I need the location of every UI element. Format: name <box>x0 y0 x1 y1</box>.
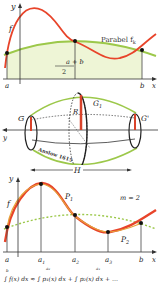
point-a <box>5 51 9 55</box>
y-label: y <box>2 134 8 142</box>
middle-ellipse-front <box>78 93 87 169</box>
limit-b: b <box>6 268 9 273</box>
H-arrow-left-icon <box>30 169 35 172</box>
point-mid <box>73 39 77 43</box>
point-b <box>140 48 144 52</box>
tick-a1: a1 <box>38 256 45 265</box>
G-prime-label: G' <box>141 114 149 123</box>
m-label: m = 2 <box>120 194 140 202</box>
P1-label: P1 <box>64 192 73 202</box>
midpoint-denominator: 2 <box>62 68 66 76</box>
tick-a2: a2 <box>72 256 79 265</box>
diagram-canvas: y f Parabel fk a + b 2 a b x G R G1 G' y… <box>0 0 161 284</box>
b-label: b <box>140 82 145 90</box>
y-axis-arrow-icon <box>18 3 22 8</box>
tick-a3: a3 <box>105 256 112 265</box>
panel-simpson-single: y f Parabel fk a + b 2 a b x <box>3 2 157 90</box>
tick-a: a <box>5 256 9 264</box>
formula-text: ∫ f(x) dx ≈ ∫ p₁(x) dx + ∫ p₂(x) dx + … <box>4 275 118 283</box>
G1-label: G1 <box>93 99 102 109</box>
formula: b a₂ a₄ ∫ f(x) dx ≈ ∫ p₁(x) dx + ∫ p₂(x)… <box>4 266 118 283</box>
dashed-top-line <box>31 114 135 120</box>
R-label: R <box>72 108 79 116</box>
limit-a2: a₂ <box>46 266 50 271</box>
y-label: y <box>8 174 14 183</box>
parabola-label: Parabel fk <box>101 36 137 45</box>
point-a2 <box>73 213 77 217</box>
H-arrow-right-icon <box>127 169 132 172</box>
point-a <box>5 225 9 229</box>
point-a1 <box>39 182 43 186</box>
midpoint-numerator: a + b <box>66 58 84 66</box>
y-label: y <box>10 2 16 11</box>
x-label: x <box>152 256 156 264</box>
point-b <box>139 221 143 225</box>
panel-simpson-composite: y f P1 P2 m = 2 a a1 a2 a3 b x <box>3 174 157 265</box>
panel-barrel: G R G1 G' y Anslow 1615 H <box>2 93 158 175</box>
x-axis-arrow-icon <box>152 77 157 81</box>
f-label: f <box>6 199 12 208</box>
G-label: G <box>18 114 25 123</box>
bottom-line <box>32 139 135 144</box>
x-axis-arrow-icon <box>152 250 157 254</box>
tick-b: b <box>139 256 144 264</box>
a-label: a <box>5 82 9 90</box>
function-curve <box>5 183 156 242</box>
y-axis-arrow-icon <box>16 177 20 182</box>
y-axis-arrow-icon <box>2 128 7 132</box>
H-label: H <box>73 166 81 175</box>
point-a3 <box>106 230 110 234</box>
x-label: x <box>152 82 156 90</box>
limit-a4: a₄ <box>96 266 100 271</box>
P2-label: P2 <box>120 235 129 245</box>
